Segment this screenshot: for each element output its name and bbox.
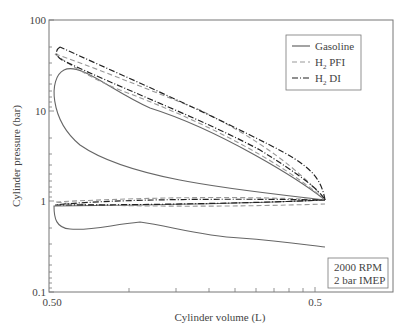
legend: Gasoline H2 PFI H2 DI (286, 35, 361, 90)
y-axis-ticks (49, 20, 54, 292)
annotation-rpm: 2000 RPM (334, 261, 382, 273)
y-tick-1: 1 (41, 195, 47, 207)
y-tick-100: 100 (30, 14, 47, 26)
operating-condition-annotation: 2000 RPM 2 bar IMEP (328, 258, 388, 288)
annotation-imep: 2 bar IMEP (334, 274, 385, 286)
y-tick-10: 10 (35, 105, 47, 117)
pv-diagram-chart: 100 10 1 0.1 0.50 0.5 Cylinder volume (L… (0, 0, 406, 335)
x-axis-title: Cylinder volume (L) (174, 311, 265, 324)
x-tick-left: 0.50 (42, 296, 62, 308)
series-gasoline (54, 69, 325, 247)
y-axis-title: Cylinder pressure (bar) (10, 105, 23, 207)
series-h2-pfi (55, 54, 325, 206)
x-tick-right: 0.5 (308, 296, 322, 308)
series-h2-di (55, 47, 325, 205)
legend-label-gasoline: Gasoline (315, 40, 354, 52)
x-axis-ticks (129, 287, 315, 292)
